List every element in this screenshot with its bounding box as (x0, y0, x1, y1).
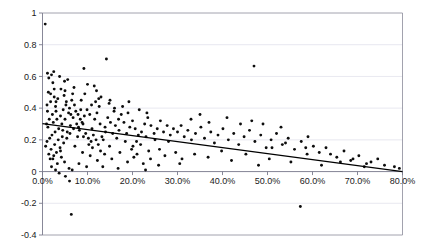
data-point (98, 105, 101, 108)
data-point (59, 115, 62, 118)
data-point (108, 102, 111, 105)
data-point (172, 127, 175, 130)
data-point (376, 157, 379, 160)
data-point (181, 157, 184, 160)
data-point (140, 130, 143, 133)
data-point (253, 140, 256, 143)
data-point (64, 175, 67, 178)
data-point (118, 151, 121, 154)
data-point (90, 140, 93, 143)
data-point (73, 86, 76, 89)
data-point (84, 132, 87, 135)
data-point (54, 169, 57, 172)
data-point (73, 104, 76, 107)
data-point (143, 123, 146, 126)
data-point (265, 146, 268, 149)
data-point (166, 124, 169, 127)
data-point (398, 167, 401, 170)
data-point (55, 118, 58, 121)
data-point (68, 107, 71, 110)
data-point (71, 92, 74, 95)
data-point (53, 143, 56, 146)
data-point (62, 142, 65, 145)
data-point (65, 100, 68, 103)
data-point (383, 164, 386, 167)
data-point (226, 116, 229, 119)
data-point (306, 153, 309, 156)
data-point (158, 148, 161, 151)
data-point (63, 94, 66, 97)
data-point (203, 137, 206, 140)
data-point (83, 92, 86, 95)
data-point (131, 119, 134, 122)
data-point (268, 157, 271, 160)
data-point (329, 153, 332, 156)
data-point (70, 99, 73, 102)
data-point (335, 156, 338, 159)
data-point (56, 97, 59, 100)
data-point (352, 157, 355, 160)
data-point (61, 129, 64, 132)
data-point (58, 75, 61, 78)
data-point (103, 153, 106, 156)
data-point (123, 121, 126, 124)
data-point (55, 100, 58, 103)
data-point (139, 143, 142, 146)
data-point (109, 121, 112, 124)
data-point (52, 70, 55, 73)
y-tick-label: 0.8 (24, 40, 37, 50)
data-point (132, 156, 135, 159)
data-point (208, 121, 211, 124)
data-point (73, 145, 76, 148)
data-point (44, 145, 47, 148)
data-point (135, 140, 138, 143)
data-point (232, 132, 235, 135)
data-point (66, 78, 69, 81)
data-point (222, 127, 225, 130)
data-point (49, 157, 52, 160)
data-point (62, 108, 65, 111)
data-point (61, 135, 64, 138)
data-point (57, 127, 60, 130)
data-point (50, 73, 53, 76)
data-point (115, 137, 118, 140)
data-point (104, 126, 107, 129)
data-point (81, 151, 84, 154)
data-point (94, 100, 97, 103)
data-point (127, 100, 130, 103)
y-tick-label: -0.4 (21, 230, 37, 240)
data-point (97, 97, 100, 100)
data-point (127, 111, 130, 114)
data-point (88, 113, 91, 116)
data-point (46, 72, 49, 75)
data-point (257, 164, 260, 167)
data-point (68, 167, 71, 170)
data-point (76, 135, 79, 138)
data-point (190, 118, 193, 121)
x-tick-label: 50.0% (255, 176, 281, 186)
data-point (63, 80, 66, 83)
data-point (51, 113, 54, 116)
y-tick-label: 0.6 (24, 72, 37, 82)
data-point (100, 135, 103, 138)
x-tick-label: 30.0% (165, 176, 191, 186)
data-point (304, 146, 307, 149)
data-point (178, 162, 181, 165)
data-point (293, 148, 296, 151)
x-tick-label: 80.0% (390, 176, 416, 186)
data-point (284, 142, 287, 145)
data-point (144, 169, 147, 172)
data-point (280, 126, 283, 129)
data-point (75, 123, 78, 126)
data-point (113, 110, 116, 113)
data-point (109, 99, 112, 102)
data-point (156, 127, 159, 130)
data-point (69, 132, 72, 135)
trend-line-segment (43, 124, 403, 172)
data-point (96, 111, 99, 114)
data-point (86, 83, 89, 86)
data-point (83, 115, 86, 118)
data-point (259, 134, 262, 137)
x-tick-label: 10.0% (75, 176, 101, 186)
data-point (250, 119, 253, 122)
